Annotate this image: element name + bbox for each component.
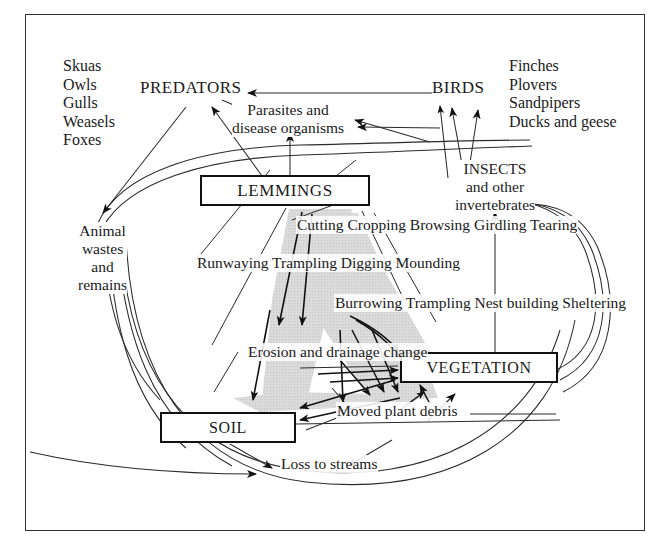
left-activities-list: Runwaying Trampling Digging Mounding	[196, 254, 461, 272]
center-activities-list: Cutting Cropping Browsing Girdling Teari…	[296, 216, 578, 234]
node-birds[interactable]: BIRDS	[432, 78, 485, 98]
node-animal-wastes[interactable]: Animal wastes and remains	[78, 222, 127, 294]
node-soil-box[interactable]: SOIL	[160, 412, 296, 443]
node-insects[interactable]: INSECTS and other invertebrates	[455, 160, 535, 214]
diagram-canvas: Skuas Owls Gulls Weasels Foxes Finches P…	[0, 0, 662, 545]
node-predators[interactable]: PREDATORS	[140, 78, 242, 98]
node-moved-plant-debris[interactable]: Moved plant debris	[336, 402, 459, 420]
node-vegetation-label: VEGETATION	[426, 359, 531, 377]
node-erosion-drainage[interactable]: Erosion and drainage change	[247, 343, 428, 361]
predator-examples-list: Skuas Owls Gulls Weasels Foxes	[63, 57, 115, 150]
right-activities-list: Burrowing Trampling Nest building Shelte…	[334, 294, 627, 312]
node-lemmings-box[interactable]: LEMMINGS	[200, 175, 370, 206]
node-loss-to-streams[interactable]: Loss to streams	[280, 455, 378, 473]
node-parasites-disease[interactable]: Parasites and disease organisms	[232, 101, 344, 137]
bird-examples-list: Finches Plovers Sandpipers Ducks and gee…	[509, 57, 617, 131]
node-lemmings-label: LEMMINGS	[237, 181, 332, 201]
node-soil-label: SOIL	[209, 419, 247, 437]
